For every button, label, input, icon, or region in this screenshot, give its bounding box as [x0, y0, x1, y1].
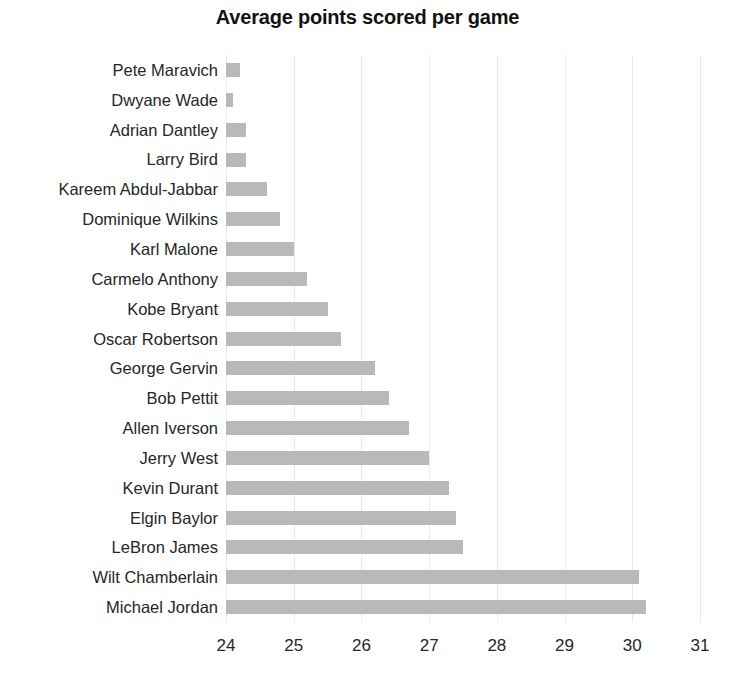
bar-chart: Average points scored per game Pete Mara… [0, 0, 735, 689]
bar [226, 421, 409, 435]
x-tick-label: 30 [623, 636, 642, 656]
bar-row [226, 234, 700, 264]
bar-row [226, 324, 700, 354]
bar [226, 123, 246, 137]
x-tick-label: 31 [691, 636, 710, 656]
x-tick-label: 27 [420, 636, 439, 656]
bar [226, 361, 375, 375]
bar [226, 272, 307, 286]
y-axis-label: Kobe Bryant [127, 299, 218, 318]
bar [226, 332, 341, 346]
bar-row [226, 204, 700, 234]
bar-row [226, 115, 700, 145]
bar [226, 302, 328, 316]
bar [226, 182, 267, 196]
bar-row [226, 503, 700, 533]
y-axis-label: Oscar Robertson [93, 329, 218, 348]
bar-row [226, 55, 700, 85]
y-axis-label: George Gervin [110, 359, 218, 378]
x-tick-label: 29 [555, 636, 574, 656]
bar-row [226, 532, 700, 562]
bar [226, 481, 449, 495]
y-axis-label: Elgin Baylor [130, 508, 218, 527]
bar [226, 451, 429, 465]
bar [226, 391, 389, 405]
bar-row [226, 413, 700, 443]
y-axis-label: Carmelo Anthony [91, 269, 218, 288]
chart-title: Average points scored per game [0, 6, 735, 29]
bar [226, 63, 240, 77]
bar-row [226, 294, 700, 324]
y-axis-label: Larry Bird [146, 150, 218, 169]
y-axis-label: Kareem Abdul-Jabbar [58, 180, 218, 199]
x-tick-label: 28 [487, 636, 506, 656]
bar-row [226, 353, 700, 383]
bar [226, 212, 280, 226]
bar-row [226, 145, 700, 175]
gridline-31 [700, 55, 701, 622]
x-tick-label: 26 [352, 636, 371, 656]
y-axis-category-labels: Pete MaravichDwyane WadeAdrian DantleyLa… [0, 55, 218, 622]
y-axis-label: Adrian Dantley [110, 120, 218, 139]
y-axis-label: Dwyane Wade [111, 90, 218, 109]
y-axis-label: Dominique Wilkins [82, 210, 218, 229]
y-axis-label: Pete Maravich [113, 60, 218, 79]
bar [226, 511, 456, 525]
bar-row [226, 592, 700, 622]
bar [226, 540, 463, 554]
bar-row [226, 383, 700, 413]
y-axis-label: Karl Malone [130, 239, 218, 258]
x-tick-label: 24 [217, 636, 236, 656]
y-axis-label: Michael Jordan [106, 598, 218, 617]
plot-area [226, 55, 700, 622]
y-axis-label: LeBron James [112, 538, 218, 557]
bar-row [226, 443, 700, 473]
bar [226, 93, 233, 107]
bar [226, 153, 246, 167]
y-axis-label: Allen Iverson [123, 419, 218, 438]
y-axis-label: Bob Pettit [146, 389, 218, 408]
y-axis-label: Kevin Durant [123, 478, 218, 497]
bar [226, 242, 294, 256]
bar-row [226, 473, 700, 503]
bar-row [226, 174, 700, 204]
bar [226, 600, 646, 614]
x-axis-tick-labels: 2425262728293031 [0, 636, 735, 666]
bar-row [226, 85, 700, 115]
bar [226, 570, 639, 584]
bar-row [226, 264, 700, 294]
y-axis-label: Jerry West [139, 448, 218, 467]
bar-row [226, 562, 700, 592]
y-axis-label: Wilt Chamberlain [92, 568, 218, 587]
x-tick-label: 25 [284, 636, 303, 656]
